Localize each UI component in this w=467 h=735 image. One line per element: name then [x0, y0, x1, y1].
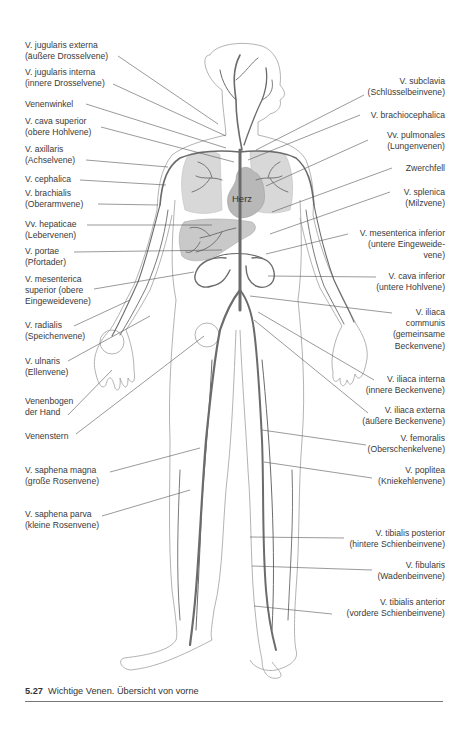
label-iliaca-communis: V. iliaca communis (gemeinsame Beckenven… — [393, 307, 445, 352]
label-cava-inferior: V. cava inferior (untere Hohlvene) — [376, 271, 445, 293]
label-brachialis: V. brachialis (Oberarmvene) — [25, 188, 83, 210]
label-cava-superior: V. cava superior (obere Hohlvene) — [25, 116, 91, 138]
body-outline — [94, 43, 367, 678]
caption-divider — [25, 701, 443, 702]
label-subclavia: V. subclavia (Schlüsselbeinvene) — [368, 76, 445, 98]
label-radialis: V. radialis (Speichenvene) — [25, 320, 85, 342]
label-saphena-magna: V. saphena magna (große Rosenvene) — [25, 465, 99, 487]
label-hepaticae: Vv. hepaticae (Lebervenen) — [25, 219, 76, 241]
label-mesenterica-superior: V. mesenterica superior (obere Eingeweid… — [25, 274, 91, 308]
label-fibularis: V. fibularis (Wadenbeinvene) — [377, 560, 445, 582]
label-iliaca-interna: V. iliaca interna (innere Beckenvene) — [366, 374, 445, 396]
figure-caption: 5.27 Wichtige Venen. Übersicht von vorne — [25, 686, 199, 696]
veins — [112, 55, 354, 650]
leader-lines — [68, 56, 392, 614]
figure-number: 5.27 — [25, 686, 43, 696]
label-tibialis-anterior: V. tibialis anterior (vordere Schienbein… — [347, 597, 445, 619]
label-cephalica: V. cephalica — [25, 174, 71, 185]
label-jugularis-interna: V. jugularis interna (innere Drosselvene… — [25, 67, 105, 89]
label-zwerchfell: Zwerchfell — [406, 163, 445, 174]
label-portae: V. portae (Pfortader) — [25, 246, 66, 268]
label-poplitea: V. poplitea (Kniekehlenvene) — [378, 465, 445, 487]
heart-label: Herz — [232, 193, 252, 204]
label-tibialis-posterior: V. tibialis posterior (hintere Schienbei… — [349, 528, 445, 550]
label-axillaris: V. axillaris (Achselvene) — [25, 144, 75, 166]
left-lung — [182, 151, 222, 213]
label-pulmonales: Vv. pulmonales (Lungenvenen) — [387, 130, 445, 152]
label-jugularis-externa: V. jugularis externa (äußere Drosselvene… — [25, 40, 108, 62]
organs — [179, 151, 292, 261]
label-femoralis: V. femoralis (Oberschenkelvene) — [368, 433, 445, 455]
label-iliaca-externa: V. iliaca externa (äußere Beckenvene) — [362, 405, 445, 427]
label-venenwinkel: Venenwinkel — [25, 99, 73, 110]
label-venenbogen: Venenbogen der Hand — [25, 396, 73, 418]
label-splenica: V. splenica (Milzvene) — [404, 187, 445, 209]
label-saphena-parva: V. saphena parva (kleine Rosenvene) — [25, 509, 99, 531]
figure-caption-text: Wichtige Venen. Übersicht von vorne — [48, 686, 199, 696]
label-brachiocephalica: V. brachiocephalica — [371, 110, 445, 121]
label-venenstern: Venenstern — [25, 431, 68, 442]
label-mesenterica-inferior: V. mesenterica inferior (untere Eingewei… — [360, 228, 445, 262]
label-ulnaris: V. ulnaris (Ellenvene) — [25, 356, 68, 378]
